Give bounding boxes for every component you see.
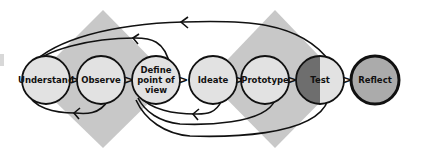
node-observe: Observe	[77, 56, 125, 104]
node-ideate: Ideate	[189, 56, 237, 104]
svg-text:Ideate: Ideate	[198, 75, 229, 85]
design-thinking-diagram: > > > > > > Understand Observe Define po…	[0, 0, 421, 152]
node-define-point-of-view: Define point of view	[132, 56, 180, 104]
node-reflect: Reflect	[351, 56, 399, 104]
svg-text:Understand: Understand	[18, 75, 74, 85]
svg-text:Observe: Observe	[81, 75, 121, 85]
node-prototype: Prototype	[241, 56, 289, 104]
node-test: Test	[296, 56, 344, 104]
svg-text:Test: Test	[310, 75, 330, 85]
svg-text:point of: point of	[137, 75, 175, 85]
svg-text:Reflect: Reflect	[358, 75, 391, 85]
svg-text:Define: Define	[141, 65, 172, 75]
svg-text:view: view	[145, 85, 167, 95]
svg-text:Prototype: Prototype	[241, 75, 289, 85]
left-edge-fragment	[0, 54, 4, 66]
